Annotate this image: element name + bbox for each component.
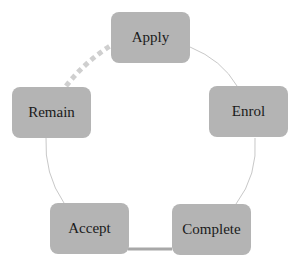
node-accept: Accept [50, 203, 129, 254]
node-remain: Remain [12, 87, 91, 138]
link-enrol-complete [236, 138, 255, 204]
node-apply: Apply [111, 12, 190, 63]
node-enrol: Enrol [209, 86, 288, 137]
node-label: Accept [68, 220, 110, 237]
node-complete: Complete [172, 204, 251, 255]
link-remain-apply [66, 46, 110, 86]
node-label: Apply [132, 29, 170, 46]
node-label: Remain [28, 104, 75, 121]
link-accept-remain [46, 137, 64, 203]
node-label: Enrol [232, 103, 265, 120]
node-label: Complete [182, 221, 240, 238]
link-apply-enrol [190, 47, 237, 86]
